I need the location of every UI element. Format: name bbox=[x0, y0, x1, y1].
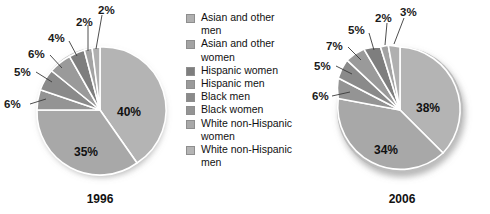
pct-label-black-women: 6% bbox=[312, 90, 329, 102]
pie-2006-svg: 6% 5% 7% 5% 2% 3% 38% 34% 2006 bbox=[312, 0, 490, 214]
pie-1996-slices bbox=[37, 47, 166, 175]
pct-label-hispanic-women: 5% bbox=[348, 24, 365, 36]
legend-swatch-icon bbox=[186, 93, 195, 102]
legend-swatch-icon bbox=[186, 146, 195, 155]
legend-item-black-men: Black men bbox=[186, 90, 314, 103]
legend-item-label: Asian and other men bbox=[201, 11, 275, 37]
legend-item-black-women: Black women bbox=[186, 103, 314, 116]
legend-swatch-icon bbox=[186, 14, 195, 23]
pct-label-white-women: 35% bbox=[74, 145, 98, 159]
pct-label-white-men: 40% bbox=[117, 105, 141, 119]
pct-label-hispanic-women: 4% bbox=[48, 32, 65, 44]
legend-swatch-icon bbox=[186, 120, 195, 129]
pct-label-hispanic-men: 6% bbox=[28, 48, 45, 60]
legend-swatch-icon bbox=[186, 106, 195, 115]
pct-label-black-women: 6% bbox=[4, 98, 21, 110]
pct-label-black-men: 5% bbox=[14, 66, 31, 78]
pct-label-asian-other-women: 2% bbox=[76, 16, 93, 28]
legend-item-label: White non-Hispanic men bbox=[201, 143, 292, 169]
legend-item-label: Black men bbox=[201, 90, 250, 103]
legend-item-white-non-hispanic-women: White non-Hispanic women bbox=[186, 117, 314, 143]
pie-1996-svg: 6% 5% 6% 4% 2% 2% 40% 35% 1996 bbox=[0, 0, 190, 214]
legend-item-asian-other-women: Asian and other women bbox=[186, 37, 314, 63]
legend-item-label: Black women bbox=[201, 103, 263, 116]
pct-label-white-women: 34% bbox=[374, 143, 398, 157]
pct-label-white-men: 38% bbox=[416, 101, 440, 115]
pie-chart-2006: 6% 5% 7% 5% 2% 3% 38% 34% 2006 bbox=[312, 0, 490, 214]
pct-label-hispanic-men: 7% bbox=[326, 40, 343, 52]
pie-chart-1996: 6% 5% 6% 4% 2% 2% 40% 35% 1996 bbox=[0, 0, 190, 214]
year-label-1996: 1996 bbox=[87, 192, 114, 206]
pct-label-asian-other-women: 2% bbox=[375, 12, 392, 24]
legend-item-label: Hispanic women bbox=[201, 64, 278, 77]
legend-item-white-non-hispanic-men: White non-Hispanic men bbox=[186, 143, 314, 169]
pct-label-asian-other-men: 2% bbox=[98, 4, 115, 16]
legend-item-label: White non-Hispanic women bbox=[201, 117, 292, 143]
legend-item-asian-other-men: Asian and other men bbox=[186, 11, 314, 37]
legend-item-hispanic-men: Hispanic men bbox=[186, 77, 314, 90]
legend-swatch-icon bbox=[186, 40, 195, 49]
legend-swatch-icon bbox=[186, 67, 195, 76]
legend-item-hispanic-women: Hispanic women bbox=[186, 64, 314, 77]
chart-legend: Asian and other men Asian and other wome… bbox=[186, 11, 314, 169]
year-label-2006: 2006 bbox=[389, 192, 416, 206]
pct-label-black-men: 5% bbox=[314, 60, 331, 72]
legend-item-label: Asian and other women bbox=[201, 37, 275, 63]
legend-swatch-icon bbox=[186, 80, 195, 89]
legend-item-label: Hispanic men bbox=[201, 77, 265, 90]
two-pie-chart-figure: 6% 5% 6% 4% 2% 2% 40% 35% 1996 bbox=[0, 0, 490, 214]
pct-label-asian-other-men: 3% bbox=[400, 6, 417, 18]
